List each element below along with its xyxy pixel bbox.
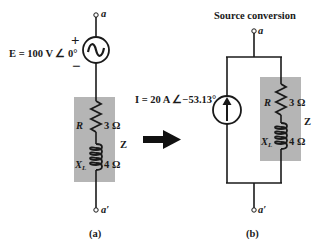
inductor-value: 4 Ω xyxy=(289,137,305,148)
source-conversion-title: Source conversion xyxy=(214,11,296,22)
terminal-a-prime-icon xyxy=(252,208,256,212)
terminal-a-prime-label: a′ xyxy=(258,205,266,216)
terminal-a-label: a xyxy=(258,26,263,37)
circuit-a xyxy=(74,13,115,212)
terminal-a-icon xyxy=(252,29,256,33)
current-source-label: I = 20 A ∠−53.13° xyxy=(135,95,216,106)
resistor-value: 3 Ω xyxy=(104,121,120,132)
plus-sign: + xyxy=(71,33,80,48)
impedance-label: Z xyxy=(304,117,311,128)
resistor-symbol: R xyxy=(76,121,83,132)
caption-a: (a) xyxy=(89,229,101,240)
terminal-a-prime-icon xyxy=(94,208,98,212)
terminal-a-label: a xyxy=(101,9,106,20)
circuit-diagram xyxy=(0,0,320,250)
impedance-label: Z xyxy=(120,140,127,151)
voltage-source-label: E = 100 V ∠ 0° xyxy=(9,49,78,60)
caption-b: (b) xyxy=(246,229,259,240)
ac-source-icon xyxy=(83,37,109,63)
minus-sign: − xyxy=(72,59,81,74)
inductor-symbol: XL xyxy=(261,137,272,149)
resistor-symbol: R xyxy=(264,98,271,109)
resistor-value: 3 Ω xyxy=(289,98,305,109)
terminal-a-icon xyxy=(94,13,98,17)
conversion-arrow-icon xyxy=(143,130,181,149)
current-source-icon xyxy=(213,96,241,124)
inductor-symbol: XL xyxy=(75,160,86,172)
inductor-value: 4 Ω xyxy=(104,160,120,171)
terminal-a-prime-label: a′ xyxy=(101,205,109,216)
circuit-b xyxy=(213,29,301,212)
